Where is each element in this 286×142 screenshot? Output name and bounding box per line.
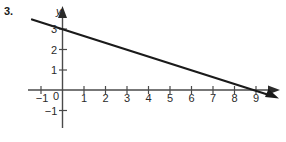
y-tick-label-1: 1 (48, 64, 60, 76)
y-tick-label-2: 2 (48, 44, 60, 56)
problem-number: 3. (4, 5, 13, 17)
x-tick-label-3: 3 (121, 92, 133, 104)
x-tick-label-8: 8 (229, 92, 241, 104)
x-tick-label-6: 6 (186, 92, 198, 104)
plotted-line (32, 20, 269, 96)
graph-figure: 3. y (0, 0, 286, 142)
x-tick-label-9: 9 (250, 92, 262, 104)
x-tick-label-1: 1 (78, 92, 90, 104)
x-tick-label-5: 5 (164, 92, 176, 104)
y-axis-label: y (56, 5, 62, 17)
origin-label: 0 (50, 90, 62, 102)
x-tick-label-2: 2 (100, 92, 112, 104)
y-tick-label-3: 3 (48, 23, 60, 35)
y-tick-label--1: −1 (42, 105, 60, 117)
x-tick-label-7: 7 (207, 92, 219, 104)
coordinate-plane-svg (0, 0, 286, 142)
x-tick-label-4: 4 (143, 92, 155, 104)
x-tick-label--1: −1 (34, 92, 50, 104)
